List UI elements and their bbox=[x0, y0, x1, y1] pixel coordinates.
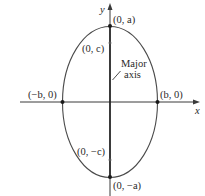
focus-upper-label: (0, c) bbox=[82, 43, 105, 55]
left-vertex-label: (−b, 0) bbox=[28, 89, 57, 101]
y-axis-arrow-icon bbox=[108, 3, 113, 10]
right-vertex-label: (b, 0) bbox=[160, 89, 183, 101]
x-axis-label: x bbox=[194, 105, 200, 116]
top-vertex-dot bbox=[108, 24, 112, 28]
major-axis-label-line1: Major bbox=[121, 58, 147, 69]
focus-lower-label: (0, −c) bbox=[77, 146, 106, 158]
y-axis-label: y bbox=[99, 4, 105, 15]
bottom-vertex-label: (0, −a) bbox=[113, 180, 142, 192]
top-vertex-label: (0, a) bbox=[113, 14, 136, 26]
major-axis-label-line2: axis bbox=[124, 69, 141, 80]
major-axis-pointer bbox=[113, 71, 121, 80]
ellipse-diagram: y x (0, a) (0, c) (−b, 0) (b, 0) (0, −c)… bbox=[0, 0, 205, 196]
bottom-vertex-dot bbox=[108, 175, 112, 179]
focus-lower-dot bbox=[109, 159, 112, 162]
right-vertex-dot bbox=[156, 100, 160, 104]
x-axis-arrow-icon bbox=[193, 100, 200, 105]
left-vertex-dot bbox=[61, 100, 65, 104]
focus-upper-dot bbox=[109, 42, 112, 45]
